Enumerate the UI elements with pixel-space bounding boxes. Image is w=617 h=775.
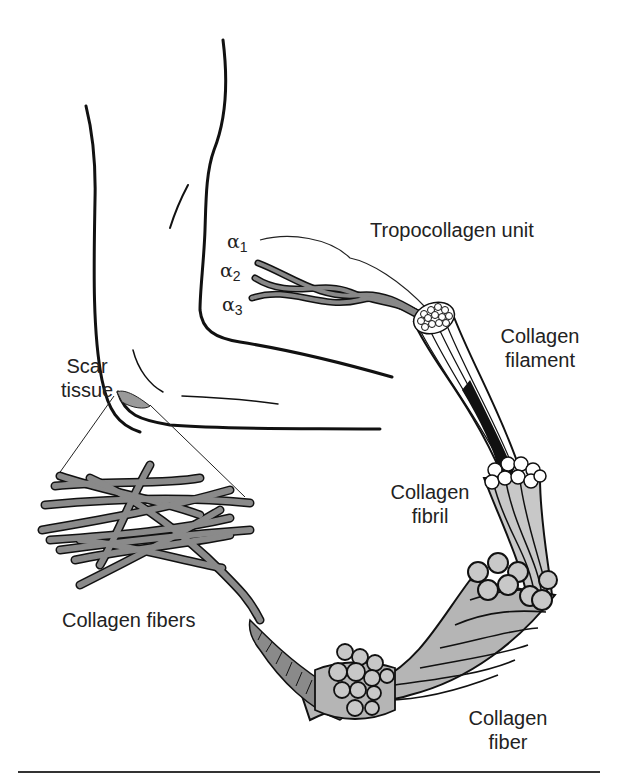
collagen-diagram: Tropocollagen unit α1 α2 α3 Collagen fil…: [0, 0, 617, 775]
label-alpha-2: α2: [220, 259, 241, 284]
label-collagen-filament: Collagen filament: [490, 324, 590, 372]
triple-helix: [252, 263, 430, 320]
label-collagen-fiber: Collagen fiber: [463, 706, 553, 754]
label-collagen-fibril: Collagen fibril: [385, 480, 475, 528]
label-collagen-fibers: Collagen fibers: [62, 608, 195, 632]
label-alpha-3: α3: [222, 293, 243, 318]
label-tropocollagen-unit: Tropocollagen unit: [370, 218, 534, 242]
collagen-fiber: [249, 553, 557, 720]
label-alpha-1: α1: [227, 230, 248, 255]
label-scar-tissue: Scar tissue: [52, 354, 122, 402]
scar-collagen-fibers: [42, 465, 260, 620]
